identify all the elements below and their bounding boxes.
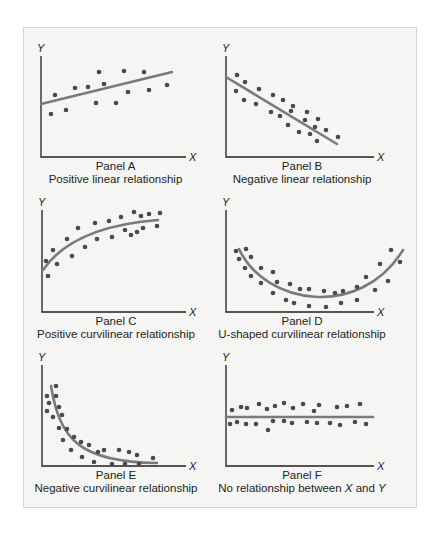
- data-point: [322, 289, 327, 294]
- data-point: [47, 401, 52, 406]
- data-point: [70, 254, 75, 259]
- data-point: [305, 420, 310, 425]
- data-point: [135, 453, 140, 458]
- data-point: [158, 211, 163, 216]
- data-point: [243, 266, 248, 271]
- data-point: [364, 422, 369, 427]
- data-point: [336, 135, 341, 140]
- data-point: [249, 274, 254, 279]
- panel-e: YXPanel ENegative curvilinear relationsh…: [35, 351, 198, 494]
- data-point: [398, 260, 403, 265]
- data-point: [358, 402, 363, 407]
- data-point: [271, 291, 276, 296]
- axes: [42, 210, 186, 312]
- data-point: [129, 233, 134, 238]
- panel-title: Panel E: [96, 469, 137, 481]
- axes: [226, 56, 374, 157]
- data-point: [339, 301, 344, 306]
- data-point: [317, 403, 322, 408]
- data-point: [243, 80, 248, 85]
- data-point: [386, 279, 391, 284]
- panel-subtitle: Negative linear relationship: [233, 173, 372, 185]
- x-axis-label: X: [376, 306, 385, 318]
- data-point: [288, 282, 293, 287]
- panel-b: YXPanel BNegative linear relationship: [222, 42, 385, 185]
- panel-subtitle: No relationship between X and Y: [218, 482, 387, 494]
- data-point: [86, 85, 91, 90]
- data-point: [307, 287, 312, 292]
- scatter-panels-figure: YXPanel APositive linear relationship YX…: [0, 0, 442, 535]
- fit-line: [41, 72, 172, 104]
- data-point: [102, 82, 107, 87]
- data-point: [235, 420, 240, 425]
- data-point: [122, 69, 127, 74]
- data-point: [165, 83, 170, 88]
- x-axis-label: X: [188, 460, 197, 472]
- data-point: [269, 110, 274, 115]
- data-point: [49, 112, 54, 117]
- data-point: [257, 87, 262, 92]
- data-point: [76, 226, 81, 231]
- data-point: [151, 456, 156, 461]
- data-point: [355, 298, 360, 303]
- data-point: [57, 426, 62, 431]
- data-point: [373, 288, 378, 293]
- fit-line: [43, 220, 158, 270]
- data-point: [46, 274, 51, 279]
- data-point: [87, 443, 92, 448]
- x-axis-label: X: [376, 460, 385, 472]
- data-point: [353, 420, 358, 425]
- data-point: [338, 423, 343, 428]
- data-point: [341, 289, 346, 294]
- data-point: [308, 132, 313, 137]
- panel-a: YXPanel APositive linear relationship: [37, 42, 197, 185]
- data-point: [259, 266, 264, 271]
- data-point: [147, 88, 152, 93]
- data-point: [278, 114, 283, 119]
- x-axis-label: X: [376, 151, 385, 163]
- data-point: [286, 123, 291, 128]
- data-point: [305, 110, 310, 115]
- data-point: [139, 214, 144, 219]
- panel-title: Panel D: [282, 315, 323, 327]
- data-point: [292, 301, 297, 306]
- data-point: [364, 275, 369, 280]
- data-point: [83, 245, 88, 250]
- data-point: [298, 287, 303, 292]
- data-point: [53, 93, 58, 98]
- data-point: [271, 93, 276, 98]
- data-point: [117, 448, 122, 453]
- axes: [226, 365, 374, 466]
- data-point: [79, 440, 84, 445]
- data-point: [147, 212, 152, 217]
- data-point: [132, 210, 137, 215]
- data-point: [65, 427, 70, 432]
- y-axis-label: Y: [38, 196, 46, 208]
- data-point: [230, 408, 235, 413]
- data-point: [114, 101, 119, 106]
- data-point: [237, 257, 242, 262]
- data-point: [61, 438, 66, 443]
- data-point: [239, 405, 244, 410]
- x-axis-label: X: [188, 306, 197, 318]
- data-point: [123, 228, 128, 233]
- data-point: [290, 421, 295, 426]
- data-point: [94, 101, 99, 106]
- data-point: [281, 98, 286, 103]
- data-point: [45, 394, 50, 399]
- data-point: [273, 404, 278, 409]
- data-point: [271, 419, 276, 424]
- data-point: [141, 226, 146, 231]
- panel-subtitle: U-shaped curvilinear relationship: [218, 328, 385, 340]
- data-point: [378, 262, 383, 267]
- panel-subtitle: Positive curvilinear relationship: [37, 328, 195, 340]
- data-point: [228, 422, 233, 427]
- data-point: [315, 139, 320, 144]
- data-point: [102, 448, 107, 453]
- data-point: [244, 422, 249, 427]
- data-point: [110, 235, 115, 240]
- data-point: [72, 435, 77, 440]
- data-point: [92, 460, 97, 465]
- data-point: [345, 404, 350, 409]
- data-point: [324, 305, 329, 310]
